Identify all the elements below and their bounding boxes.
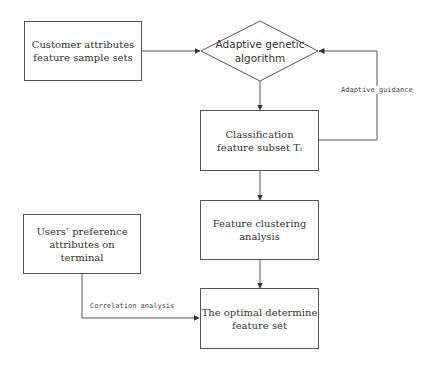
flowchart-canvas: Customer attributes feature sample sets … bbox=[0, 0, 432, 368]
label-correlation-analysis: Correlation analysis bbox=[90, 302, 174, 310]
node-classification-feature-subset: Classification feature subset Tᵢ bbox=[200, 110, 319, 171]
node-optimal-feature-set: The optimal determine feature set bbox=[200, 288, 319, 349]
edge-adaptive-guidance-feedback bbox=[318, 51, 377, 140]
node-users-preference-attributes: Users’ preference attributes on terminal bbox=[23, 214, 141, 274]
node-adaptive-genetic-algorithm: Adaptive genetic algorithm bbox=[212, 33, 308, 69]
node-customer-attributes: Customer attributes feature sample sets bbox=[24, 21, 142, 81]
edge-correlation-analysis bbox=[82, 273, 199, 318]
label-adaptive-guidance: Adaptive guidance bbox=[341, 86, 413, 94]
node-feature-clustering-analysis: Feature clustering analysis bbox=[200, 200, 319, 260]
